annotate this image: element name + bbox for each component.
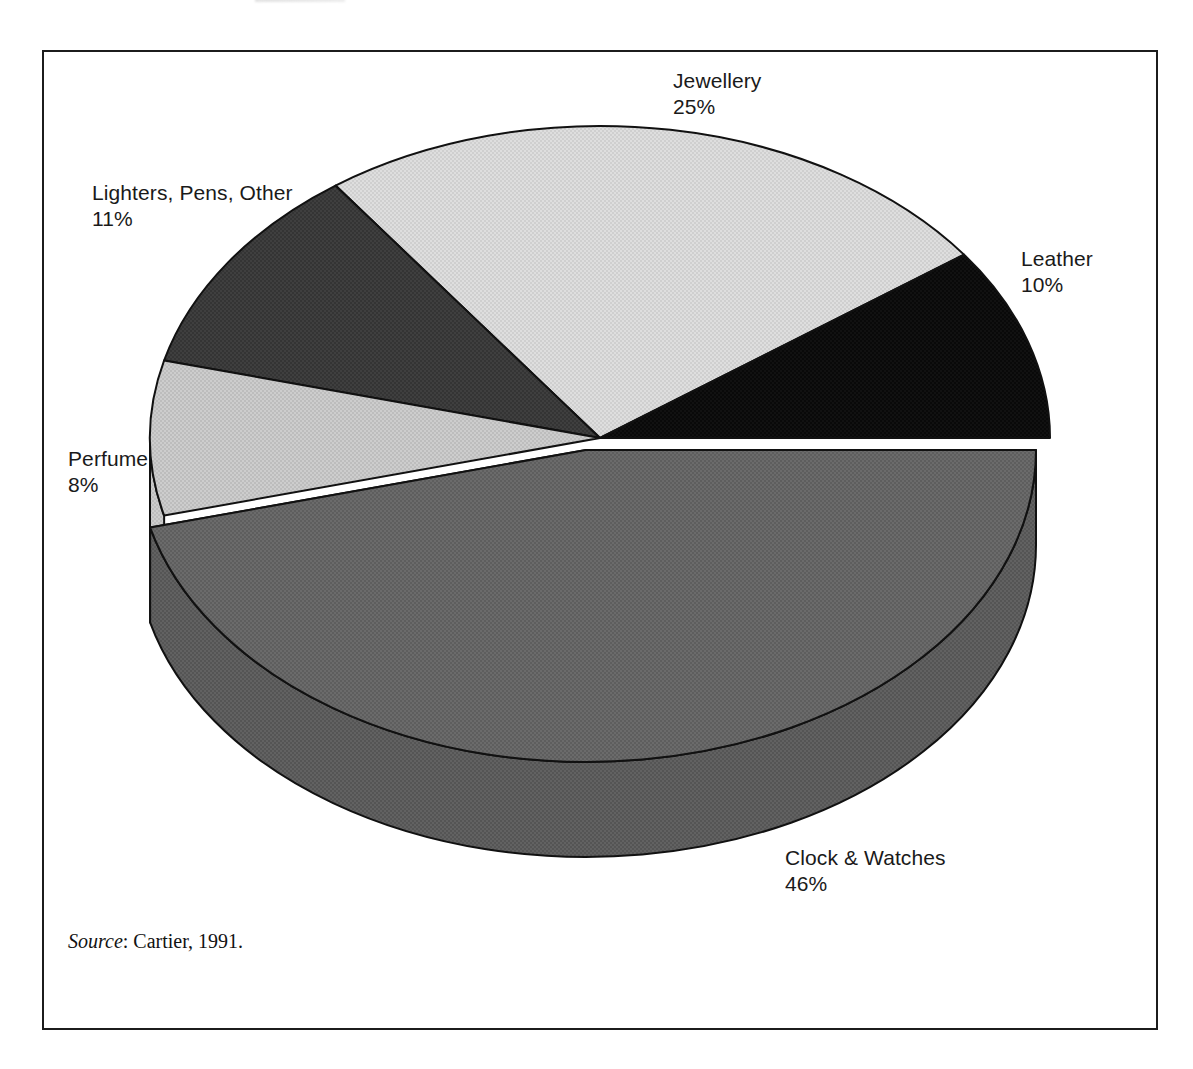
slice-label-perfume-percent: 8% [68, 472, 148, 498]
source-note: Source: Cartier, 1991. [68, 930, 243, 953]
slice-label-perfume-name: Perfume [68, 447, 148, 470]
slice-label-clock-watches-name: Clock & Watches [785, 846, 946, 869]
pie-chart-canvas [0, 0, 1193, 1069]
slice-label-jewellery: Jewellery 25% [673, 68, 761, 119]
slice-label-leather-name: Leather [1021, 247, 1093, 270]
slice-label-lighters-percent: 11% [92, 206, 293, 232]
slice-label-clock-watches-percent: 46% [785, 871, 946, 897]
slice-label-lighters-name: Lighters, Pens, Other [92, 181, 293, 204]
slice-label-jewellery-name: Jewellery [673, 69, 761, 92]
slice-label-leather: Leather 10% [1021, 246, 1093, 297]
source-note-prefix: Source [68, 930, 123, 952]
pie-group [150, 126, 1050, 857]
slice-label-jewellery-percent: 25% [673, 94, 761, 120]
slice-label-leather-percent: 10% [1021, 272, 1093, 298]
source-note-text: : Cartier, 1991. [123, 930, 243, 952]
slice-label-lighters: Lighters, Pens, Other 11% [92, 180, 293, 231]
slice-label-clock-watches: Clock & Watches 46% [785, 845, 946, 896]
slice-label-perfume: Perfume 8% [68, 446, 148, 497]
